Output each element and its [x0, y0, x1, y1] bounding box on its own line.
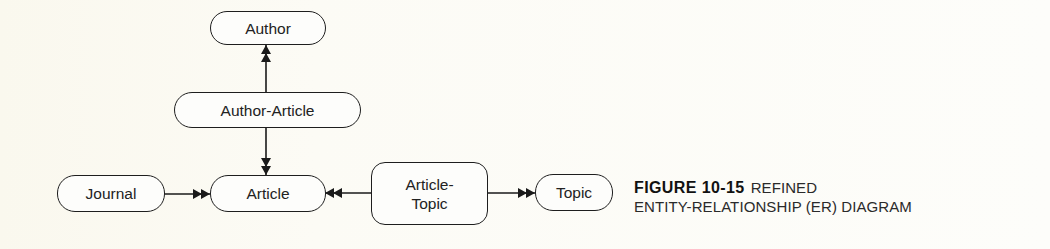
caption-title-line1: REFINED: [751, 179, 818, 196]
entity-article-label: Article: [246, 184, 289, 203]
entity-article-topic-label-line2: Topic: [411, 194, 447, 213]
entity-article: Article: [210, 175, 326, 212]
entity-topic: Topic: [535, 174, 613, 211]
figure-number: FIGURE 10-15: [634, 179, 745, 196]
entity-article-topic: Article- Topic: [371, 162, 488, 225]
entity-author-article-label: Author-Article: [221, 101, 315, 120]
caption-line-1: FIGURE 10-15REFINED: [634, 178, 912, 197]
entity-author: Author: [210, 11, 326, 45]
entity-topic-label: Topic: [556, 183, 592, 202]
entity-journal: Journal: [57, 175, 165, 212]
entity-author-label: Author: [245, 19, 291, 38]
figure-caption: FIGURE 10-15REFINED ENTITY-RELATIONSHIP …: [634, 178, 912, 216]
er-diagram-figure: Author Author-Article Journal Article Ar…: [0, 0, 1050, 249]
entity-author-article: Author-Article: [174, 92, 361, 128]
entity-article-topic-label-line1: Article-: [405, 175, 453, 194]
caption-title-line2: ENTITY-RELATIONSHIP (ER) DIAGRAM: [634, 197, 912, 216]
entity-journal-label: Journal: [86, 184, 137, 203]
